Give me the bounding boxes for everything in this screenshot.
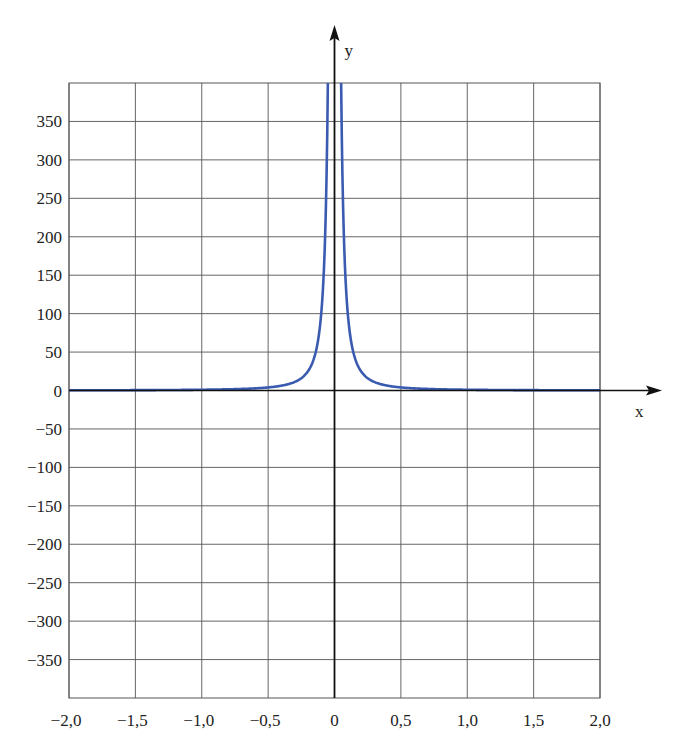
y-axis-label: y: [345, 41, 354, 60]
y-tick-label: 0: [54, 382, 63, 401]
x-axis-label: x: [635, 402, 644, 421]
y-tick-label: 50: [45, 343, 62, 362]
y-tick-label: −200: [27, 535, 62, 554]
y-tick-label: −250: [27, 574, 62, 593]
y-tick-label: −350: [27, 651, 62, 670]
y-tick-label: 200: [37, 228, 63, 247]
y-tick-label: 150: [37, 266, 63, 285]
x-tick-labels: −2,0−1,5−1,0−0,500,51,01,52,0: [51, 711, 611, 730]
x-tick-label: 2,0: [589, 711, 610, 730]
x-tick-label: 1,0: [457, 711, 478, 730]
x-tick-label: −0,5: [250, 711, 281, 730]
y-tick-label: 250: [37, 189, 63, 208]
x-tick-label: 0: [330, 711, 339, 730]
y-tick-label: 300: [37, 151, 63, 170]
x-tick-label: −2,0: [51, 711, 82, 730]
y-tick-label: −50: [35, 420, 62, 439]
y-tick-label: 100: [37, 305, 63, 324]
x-tick-label: 1,5: [523, 711, 544, 730]
y-tick-label: 350: [37, 112, 63, 131]
function-plot: 350300250200150100500−50−100−150−200−250…: [0, 0, 682, 749]
y-tick-labels: 350300250200150100500−50−100−150−200−250…: [27, 112, 62, 669]
y-tick-label: −300: [27, 612, 62, 631]
x-tick-label: −1,5: [117, 711, 148, 730]
y-tick-label: −150: [27, 497, 62, 516]
x-tick-label: 0,5: [390, 711, 411, 730]
x-axis: x: [69, 386, 662, 421]
x-tick-label: −1,0: [183, 711, 214, 730]
y-tick-label: −100: [27, 458, 62, 477]
